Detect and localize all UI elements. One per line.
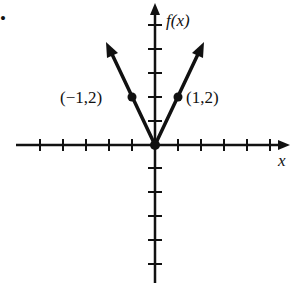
- problem-bullet: •: [0, 9, 6, 28]
- x-axis-label: x: [277, 151, 286, 170]
- point-1-2: [174, 93, 183, 102]
- left-arrow-icon: [106, 42, 118, 58]
- point-label-1-2: (1,2): [186, 88, 219, 107]
- y-axis-label: f(x): [166, 11, 190, 30]
- origin-point: [150, 140, 160, 150]
- x-axis: [16, 139, 280, 151]
- point-neg1-2: [128, 93, 137, 102]
- y-axis-arrow-icon: [150, 3, 160, 15]
- graph: • (−1,2) (1,2) f(x) x: [0, 0, 295, 298]
- right-arrow-icon: [192, 42, 204, 58]
- point-label-neg1-2: (−1,2): [60, 88, 102, 107]
- x-axis-arrow-icon: [278, 140, 290, 150]
